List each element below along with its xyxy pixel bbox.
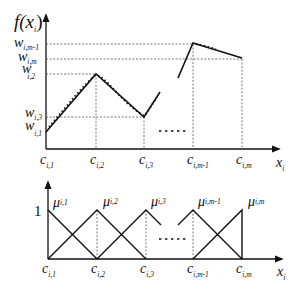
mf-x-tick-c-i-2: ci,2	[91, 261, 105, 279]
top-x-axis-label: xi	[275, 155, 284, 173]
approx-curve-left	[46, 74, 160, 132]
mf-label-mu-i-1: μi,1	[52, 195, 68, 210]
mf-x-tick-c-i-1: ci,1	[42, 261, 56, 279]
approx-curve-right	[178, 43, 242, 78]
bottom-x-axis-label: xi	[276, 264, 285, 282]
true-curve-left	[49, 76, 157, 127]
mf-x-tick-c-i-m-1: ci,m-1	[187, 261, 209, 279]
mf-mu-i-m-1	[178, 210, 242, 259]
mf-x-tick-c-i-m: ci,m	[236, 261, 252, 279]
mf-x-tick-c-i-3: ci,3	[140, 261, 154, 279]
x-tick-c-i-m: ci,m	[236, 152, 252, 170]
mf-label-mu-i-2: μi,2	[102, 194, 118, 209]
mf-label-mu-i-m-1: μi,m-1	[197, 194, 221, 209]
mf-mu-i-3	[97, 210, 161, 259]
mf-label-mu-i-3: μi,3	[150, 194, 166, 209]
x-tick-c-i-1: ci,1	[40, 152, 54, 170]
x-tick-c-i-3: ci,3	[139, 152, 153, 170]
bottom-plot: 1 μi,1 μi,2 μi,3 μi,m-1 μi,m ci,1 ci,2 c…	[34, 182, 285, 282]
mf-label-mu-i-m: μi,m	[247, 194, 265, 209]
x-tick-c-i-m-1: ci,m-1	[187, 152, 209, 170]
top-plot: f(xi) wi,m-1 wi,m wi,2 wi,3 wi,1 ci,1 ci…	[14, 11, 284, 173]
top-y-axis-label: f(xi)	[14, 11, 43, 34]
fuzzy-piecewise-linear-diagram: f(xi) wi,m-1 wi,m wi,2 wi,3 wi,1 ci,1 ci…	[0, 0, 301, 295]
y-tick-one: 1	[34, 203, 42, 219]
x-tick-c-i-2: ci,2	[90, 152, 104, 170]
